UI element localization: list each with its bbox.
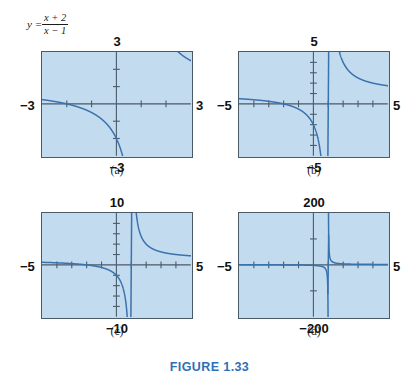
panel-caption-d: (d) xyxy=(307,325,320,337)
figure-container: y =x + 2x − 1 3−3−33(a)5−5−55(b)10−10−55… xyxy=(0,0,419,386)
plot-area-d xyxy=(238,212,390,319)
x-max-label-d: 5 xyxy=(393,259,400,272)
x-min-label-d: −5 xyxy=(217,259,232,272)
plot-panel-d: 200−200−55(d) xyxy=(0,0,419,386)
figure-caption: FIGURE 1.33 xyxy=(0,360,419,374)
curve-branch-right xyxy=(328,213,387,264)
y-max-label-d: 200 xyxy=(303,196,325,209)
asymptote-artifact xyxy=(328,235,329,294)
